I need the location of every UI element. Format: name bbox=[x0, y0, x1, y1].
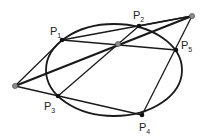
point-P4 bbox=[140, 113, 145, 118]
pascal-diagram bbox=[0, 0, 207, 138]
intersection-point-left bbox=[12, 83, 17, 88]
line-L-P1 bbox=[15, 40, 62, 86]
point-P3 bbox=[56, 94, 61, 99]
intersection-point-center bbox=[115, 41, 120, 46]
label-p2: P2 bbox=[133, 10, 144, 23]
label-p4: P4 bbox=[139, 122, 150, 135]
line-L-P4 bbox=[15, 86, 142, 115]
line-P3-P2 bbox=[58, 26, 139, 96]
label-p3: P3 bbox=[44, 101, 55, 114]
conic-ellipse bbox=[46, 24, 182, 116]
pascal-line bbox=[15, 16, 192, 86]
label-p1: P1 bbox=[50, 26, 61, 39]
point-P2 bbox=[137, 24, 142, 29]
label-p5: P5 bbox=[181, 40, 192, 53]
line-P2-R bbox=[139, 16, 192, 26]
intersection-point-right bbox=[189, 13, 194, 18]
point-P5 bbox=[174, 48, 179, 53]
